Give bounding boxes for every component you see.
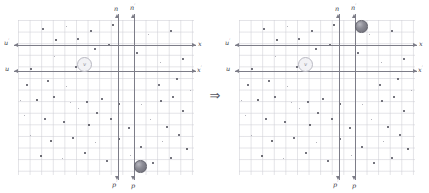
star-point (316, 142, 317, 143)
label-x: x (198, 40, 202, 48)
star-point (391, 30, 393, 32)
star-point (152, 162, 154, 164)
relativity-frame-figure: u′ x u x′ n n′ p′ p v ⇒ (0, 0, 429, 193)
star-point (245, 115, 246, 116)
x-prime-arrowhead (192, 69, 196, 73)
star-point (275, 56, 276, 57)
star-point (62, 158, 63, 159)
star-point (128, 127, 130, 129)
n-axis-line (118, 14, 119, 180)
star-point (369, 34, 370, 35)
star-point (315, 48, 317, 50)
star-point (309, 124, 311, 126)
star-point (172, 96, 174, 98)
p-arrowhead (131, 176, 135, 180)
label-p: p (352, 182, 356, 190)
star-point (47, 80, 49, 82)
star-point (166, 126, 168, 128)
star-point (403, 110, 405, 112)
star-point (63, 121, 65, 123)
star-point (317, 112, 319, 114)
observer-label: v (83, 62, 86, 68)
x-arrowhead (192, 43, 196, 47)
star-point (391, 157, 393, 159)
star-point (160, 62, 161, 63)
star-point (72, 137, 74, 139)
p-prime-arrowhead (115, 176, 119, 180)
star-point (265, 118, 267, 120)
star-point (283, 158, 284, 159)
star-point (24, 115, 25, 116)
star-point (130, 155, 131, 156)
n-prime-arrowhead (352, 14, 356, 18)
star-point (261, 155, 263, 157)
star-point (287, 26, 288, 27)
star-point (379, 84, 381, 86)
n-arrowhead (336, 14, 340, 18)
star-point (36, 99, 38, 101)
star-point (284, 121, 286, 123)
label-p-prime: p′ (333, 181, 338, 189)
star-point (190, 90, 191, 91)
star-point (287, 86, 288, 87)
star-point (322, 98, 324, 100)
u-prime-axis-line (235, 45, 417, 46)
star-point (305, 152, 307, 154)
star-point (158, 84, 160, 86)
star-point (40, 155, 42, 157)
label-n-prime: n′ (130, 4, 135, 12)
star-point (136, 52, 138, 54)
star-point (55, 39, 57, 41)
star-point (90, 30, 92, 32)
label-x-prime: x′ (418, 66, 423, 74)
star-point (251, 68, 253, 70)
n-prime-arrowhead (131, 14, 135, 18)
starfield (0, 0, 208, 193)
particle-marker (355, 20, 368, 33)
n-axis-line (339, 14, 340, 180)
label-u-prime: u′ (225, 39, 230, 47)
star-point (95, 142, 96, 143)
star-point (327, 160, 329, 162)
label-x-prime: x′ (197, 66, 202, 74)
star-point (268, 80, 270, 82)
star-point (78, 108, 79, 109)
starfield (221, 0, 429, 193)
label-n-prime: n′ (351, 4, 356, 12)
star-point (257, 99, 259, 101)
n-prime-axis-line (134, 14, 135, 180)
star-point (357, 52, 359, 54)
star-point (276, 39, 278, 41)
particle-marker (134, 160, 147, 173)
n-prime-axis-line (355, 14, 356, 180)
star-point (88, 124, 90, 126)
observer-marker: v (77, 57, 92, 72)
star-point (141, 104, 142, 105)
star-point (407, 148, 409, 150)
star-point (361, 146, 363, 148)
star-point (383, 141, 384, 142)
star-point (186, 148, 188, 150)
star-point (247, 84, 249, 86)
star-point (101, 98, 103, 100)
label-n: n (335, 5, 339, 13)
label-u-prime: u′ (4, 39, 9, 47)
u-arrowhead (235, 69, 239, 73)
star-point (331, 118, 333, 120)
star-point (298, 38, 300, 40)
star-point (271, 140, 273, 142)
star-point (293, 137, 295, 139)
star-point (170, 30, 172, 32)
star-point (182, 110, 184, 112)
star-point (110, 118, 112, 120)
u-prime-arrowhead (14, 43, 18, 47)
star-point (106, 160, 108, 162)
u-arrowhead (14, 69, 18, 73)
star-point (291, 102, 292, 103)
unprimed-frame-panel: u′ x u x′ n n′ p′ p v (0, 0, 208, 193)
star-point (66, 26, 67, 27)
star-point (44, 118, 46, 120)
star-point (393, 96, 395, 98)
star-point (20, 100, 21, 101)
label-p: p (131, 182, 135, 190)
